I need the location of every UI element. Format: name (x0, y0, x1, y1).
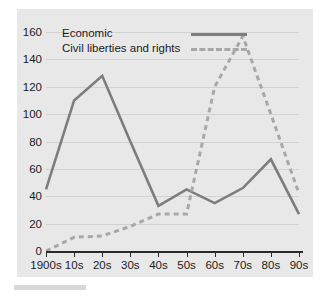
y-axis-tick-label: 0 (36, 245, 42, 257)
x-axis-tick (74, 251, 75, 257)
x-axis-tick-label: 70s (233, 259, 252, 271)
series-line-civil-liberties (46, 36, 299, 251)
legend-swatch-dashed-line-icon (191, 48, 247, 51)
y-axis-tick-label: 140 (23, 53, 42, 65)
series-lines (46, 32, 299, 251)
x-axis-tick (215, 251, 216, 257)
x-axis-line (46, 251, 303, 253)
y-axis-tick-label: 120 (23, 81, 42, 93)
y-axis-tick-label: 60 (29, 163, 42, 175)
x-axis-tick-label: 10s (65, 259, 84, 271)
series-line-economic (46, 76, 299, 214)
x-axis-tick-label: 50s (177, 259, 196, 271)
x-axis-tick-label: 20s (93, 259, 112, 271)
x-axis-tick (130, 251, 131, 257)
bottom-accent-bar (14, 285, 86, 290)
x-axis-tick-label: 90s (290, 259, 309, 271)
legend-item-economic: Economic (62, 27, 247, 42)
legend-item-civil-liberties: Civil liberties and rights (62, 42, 247, 57)
x-axis-tick (158, 251, 159, 257)
x-axis-tick-label: 60s (205, 259, 224, 271)
chart-screenshot: 020406080100120140160 1900s10s20s30s40s5… (0, 0, 333, 296)
legend-swatch-solid-line-icon (191, 33, 247, 36)
x-axis-tick-label: 30s (121, 259, 140, 271)
legend-label-civil-liberties: Civil liberties and rights (62, 42, 180, 54)
x-axis-tick-label: 1900s (30, 259, 61, 271)
y-axis-tick-label: 40 (29, 190, 42, 202)
x-axis-tick (299, 251, 300, 257)
y-axis-tick-label: 20 (29, 218, 42, 230)
x-axis-tick (102, 251, 103, 257)
x-axis-tick (187, 251, 188, 257)
chart-legend: Economic Civil liberties and rights (62, 27, 247, 57)
x-axis-tick (271, 251, 272, 257)
y-axis-tick-label: 80 (29, 136, 42, 148)
legend-label-economic: Economic (62, 27, 113, 39)
x-axis-tick (46, 251, 47, 257)
x-axis-tick (243, 251, 244, 257)
x-axis-tick-label: 40s (149, 259, 168, 271)
y-axis-labels: 020406080100120140160 (14, 32, 42, 251)
x-axis-tick-label: 80s (262, 259, 281, 271)
y-axis-tick-label: 100 (23, 108, 42, 120)
y-axis-tick-label: 160 (23, 26, 42, 38)
